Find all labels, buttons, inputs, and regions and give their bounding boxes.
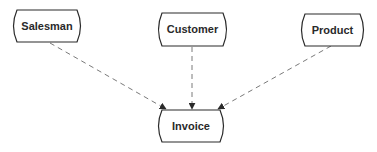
node-label-customer: Customer <box>167 23 219 35</box>
node-label-invoice: Invoice <box>172 120 210 132</box>
node-label-salesman: Salesman <box>21 20 73 32</box>
node-customer[interactable]: Customer <box>159 13 227 46</box>
edge-product-invoice <box>218 46 331 109</box>
edge-salesman-invoice <box>50 43 166 109</box>
er-diagram: Salesman Customer Product Invoice <box>0 0 377 152</box>
node-label-product: Product <box>312 24 354 36</box>
node-invoice[interactable]: Invoice <box>159 110 224 142</box>
node-product[interactable]: Product <box>302 14 364 46</box>
node-salesman[interactable]: Salesman <box>14 10 81 42</box>
